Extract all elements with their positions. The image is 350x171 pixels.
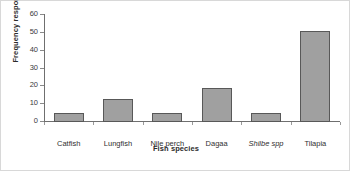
x-tick-mark	[241, 122, 242, 125]
y-tick-mark	[40, 14, 44, 15]
y-tick-label: 40	[12, 46, 38, 54]
y-tick-label: 30	[12, 64, 38, 72]
x-tick-mark	[192, 122, 193, 125]
x-tick-mark	[340, 122, 341, 125]
x-axis-title: Fish species	[1, 144, 350, 153]
y-tick-label: 10	[12, 99, 38, 107]
y-tick-mark	[40, 68, 44, 69]
y-tick-label: 20	[12, 81, 38, 89]
bar-chart-figure: Frequency response 0102030405060 Catfish…	[0, 0, 350, 171]
y-tick-mark	[40, 50, 44, 51]
y-tick-mark	[40, 32, 44, 33]
y-tick-label: 0	[12, 117, 38, 125]
bar-shilbe-spp	[251, 113, 281, 122]
y-tick-label: 50	[12, 28, 38, 36]
bar-nile-perch	[152, 113, 182, 122]
x-tick-mark	[44, 122, 45, 125]
x-tick-mark	[93, 122, 94, 125]
bar-lungfish	[103, 99, 133, 122]
x-tick-mark	[291, 122, 292, 125]
x-tick-mark	[143, 122, 144, 125]
bar-tilapia	[300, 31, 330, 122]
y-axis-line	[44, 14, 45, 122]
plot-area: 0102030405060 CatfishLungfishNile perchD…	[44, 14, 340, 123]
y-tick-mark	[40, 103, 44, 104]
y-tick-mark	[40, 85, 44, 86]
bar-dagaa	[202, 88, 232, 122]
bar-catfish	[54, 113, 84, 122]
y-tick-label: 60	[12, 10, 38, 18]
